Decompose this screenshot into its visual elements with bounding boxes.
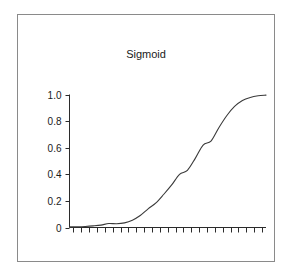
y-tick-label: 0.6 (48, 143, 62, 154)
y-axis-ticks (66, 96, 70, 229)
x-axis-ticks (74, 228, 263, 233)
figure-container: Sigmoid 1.00.80.60.40.20 (0, 0, 291, 276)
sigmoid-chart: Sigmoid 1.00.80.60.40.20 (0, 0, 291, 276)
y-tick-label: 0.8 (48, 116, 62, 127)
chart-title: Sigmoid (126, 48, 166, 60)
y-axis-tick-labels: 1.00.80.60.40.20 (48, 90, 62, 234)
y-tick-label: 1.0 (48, 90, 62, 101)
y-tick-label: 0.2 (48, 196, 62, 207)
sigmoid-curve (70, 95, 267, 227)
y-tick-label: 0 (56, 223, 62, 234)
y-tick-label: 0.4 (48, 169, 62, 180)
